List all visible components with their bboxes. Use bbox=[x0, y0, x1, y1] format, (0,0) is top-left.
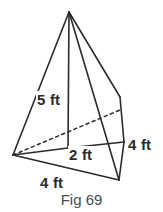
edge-left-vertex-to-front-vertex bbox=[13, 155, 119, 180]
edge-apex-to-left-vertex bbox=[13, 12, 69, 155]
edge-front-vertex-to-right-bottom bbox=[119, 142, 124, 180]
edge-right-vertical bbox=[120, 97, 124, 142]
dimension-label-slant-edge: 5 ft bbox=[36, 91, 61, 108]
edge-apex-to-right-top-vertex bbox=[69, 12, 120, 97]
dimension-label-left-base-edge: 4 ft bbox=[39, 174, 64, 191]
dimension-label-front-base-edge: 2 ft bbox=[68, 146, 93, 163]
figure-caption: Fig 69 bbox=[0, 192, 163, 207]
edge-apex-to-center-base bbox=[68, 12, 69, 148]
dimension-label-right-vertical-edge: 4 ft bbox=[127, 136, 152, 153]
figure-container: 5 ft 2 ft 4 ft 4 ft Fig 69 bbox=[0, 0, 163, 212]
pyramid-diagram bbox=[0, 0, 163, 212]
